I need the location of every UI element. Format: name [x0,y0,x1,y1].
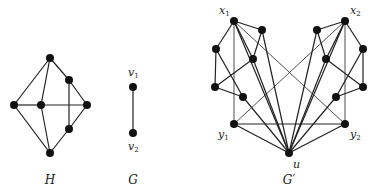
node-label-v1: v1 [128,66,139,80]
caption-gprime: G′ [283,173,296,187]
edge-c-b [41,105,50,153]
node-l [10,101,18,109]
edge-ur-r [69,80,87,105]
edge-b-lr [50,129,69,153]
node-label-v2: v2 [128,140,139,154]
edge-l-b [14,105,50,153]
node-d2 [359,83,367,91]
node-y1 [230,120,238,128]
node-a1 [258,26,266,34]
node-x2 [341,17,349,25]
node-b [46,149,54,157]
edge-b1-d1 [215,49,216,87]
node-v1 [129,83,137,91]
edge-e1-u [243,97,289,153]
node-lr [65,125,73,133]
edge-t-l [14,58,50,105]
node-label-y2: y2 [349,128,361,142]
edge-y2-u [289,124,345,153]
node-c [37,101,45,109]
edge-x1-u [234,21,289,153]
node-e1 [239,93,247,101]
node-d1 [211,83,219,91]
node-x1 [230,17,238,25]
node-label-x2: x2 [350,4,361,18]
edge-b1-e1 [216,49,243,97]
graph-g: v1v2G [128,66,139,187]
edge-y1-u [234,124,289,153]
node-ur [65,76,73,84]
edge-t-ur [50,58,69,80]
edge-x2-b2 [345,21,363,49]
edge-d2-e2 [336,87,363,97]
edge-e2-u [289,97,336,153]
caption-g: G [128,173,138,187]
graph-gprime: x1y1x2y2uG′ [211,4,367,187]
edge-b2-e2 [336,49,363,97]
node-t [46,54,54,62]
node-a2 [313,26,321,34]
node-u [285,149,293,157]
edge-lr-r [69,105,87,129]
edge-t-c [41,58,50,105]
graph-figure: Hv1v2Gx1y1x2y2uG′ [0,0,376,196]
node-r [83,101,91,109]
node-y2 [341,120,349,128]
node-label-x1: x1 [219,4,230,18]
node-c2 [322,55,330,63]
edge-x1-b1 [216,21,234,49]
node-label-u: u [293,158,300,171]
node-label-y1: y1 [217,128,229,142]
node-e2 [332,93,340,101]
edge-a2-c2 [317,30,326,59]
node-b1 [212,45,220,53]
node-b2 [359,45,367,53]
caption-h: H [44,173,56,187]
node-v2 [129,129,137,137]
edge-a1-c1 [253,30,262,59]
node-c1 [249,55,257,63]
figure-canvas: Hv1v2Gx1y1x2y2uG′ [0,0,376,196]
graph-h: H [10,54,91,187]
